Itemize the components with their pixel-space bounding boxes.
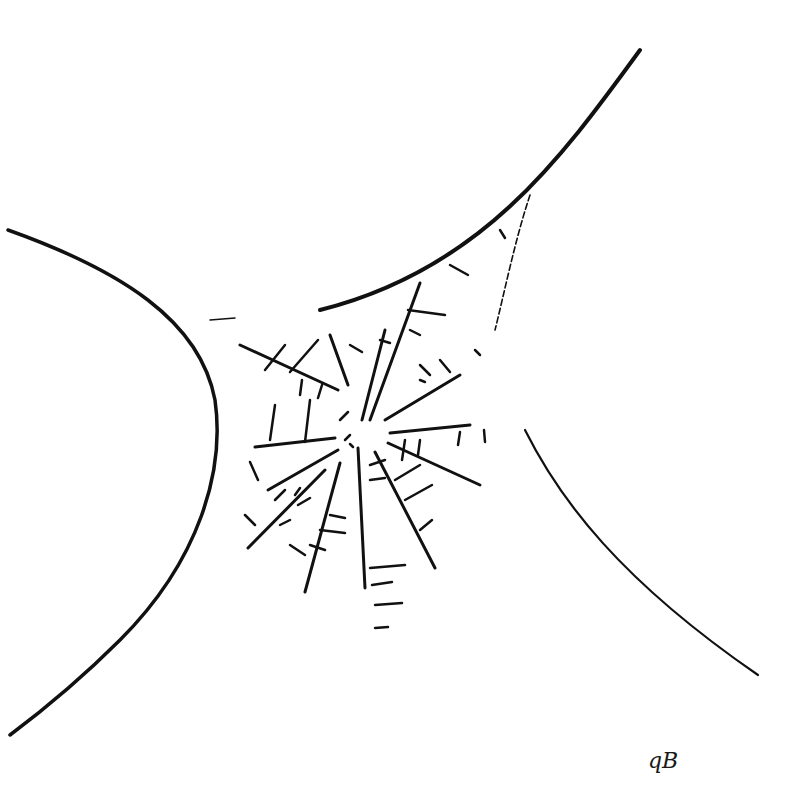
artist-signature: qB [648, 748, 678, 773]
spider-web-drawing [0, 0, 809, 803]
artwork-canvas: qB [0, 0, 809, 803]
